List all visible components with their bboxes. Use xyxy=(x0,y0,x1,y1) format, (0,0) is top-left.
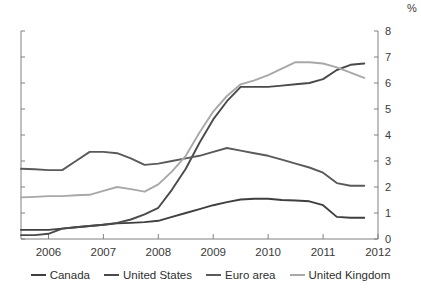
legend-item-united-kingdom[interactable]: United Kingdom xyxy=(290,269,391,281)
x-axis-tick-label: 2007 xyxy=(91,246,117,258)
legend-label-euro-area: Euro area xyxy=(225,269,276,281)
series-line-euro-area xyxy=(21,148,364,186)
y-axis-tick-label: 1 xyxy=(385,207,391,219)
series-line-united-states xyxy=(21,64,364,236)
y-axis-tick-label: 7 xyxy=(385,51,391,63)
y-axis-tick-label: 3 xyxy=(385,155,391,167)
legend-item-canada[interactable]: Canada xyxy=(31,269,90,281)
chart-figure: % 0123456782006200720082009201020112012 … xyxy=(0,0,421,288)
plot-area: % 0123456782006200720082009201020112012 xyxy=(0,0,421,262)
legend-label-united-kingdom: United Kingdom xyxy=(309,269,391,281)
x-axis-tick-label: 2009 xyxy=(200,246,226,258)
legend-item-united-states[interactable]: United States xyxy=(104,269,192,281)
legend-label-united-states: United States xyxy=(123,269,192,281)
series-line-canada xyxy=(21,199,364,230)
legend-swatch-united-kingdom xyxy=(290,274,305,276)
x-axis-tick-label: 2011 xyxy=(311,246,336,258)
x-axis-tick-label: 2008 xyxy=(146,246,172,258)
y-axis-tick-label: 6 xyxy=(385,77,391,89)
legend-swatch-united-states xyxy=(104,274,119,276)
legend-swatch-euro-area xyxy=(206,274,221,276)
legend-swatch-canada xyxy=(31,274,46,276)
x-axis-tick-label: 2010 xyxy=(255,246,281,258)
x-axis-tick-label: 2012 xyxy=(365,246,391,258)
y-axis-tick-label: 5 xyxy=(385,103,391,115)
y-axis-tick-label: 0 xyxy=(385,233,391,245)
y-axis-unit-label: % xyxy=(407,2,417,14)
y-axis-tick-label: 2 xyxy=(385,181,391,193)
y-axis-tick-label: 4 xyxy=(385,129,391,141)
y-axis-tick-label: 8 xyxy=(385,25,391,37)
line-chart: 0123456782006200720082009201020112012 xyxy=(0,0,421,262)
legend-label-canada: Canada xyxy=(50,269,90,281)
legend-item-euro-area[interactable]: Euro area xyxy=(206,269,276,281)
x-axis-tick-label: 2006 xyxy=(36,246,62,258)
chart-legend: Canada United States Euro area United Ki… xyxy=(0,262,421,288)
